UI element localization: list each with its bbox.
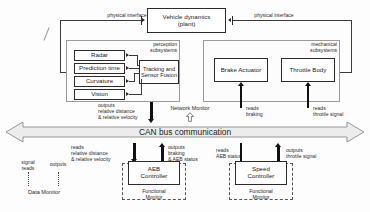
sensor-label-radar: Radar: [91, 52, 108, 59]
mechanical-subsystems-label: mechanical subsystems: [286, 41, 337, 53]
brake-command-arrow-shaft: [240, 86, 243, 108]
can-bus-label: CAN bus communication: [6, 127, 364, 137]
throttle-command-arrow-shaft: [307, 86, 310, 108]
speed-controller-label-line2: Controller: [248, 173, 275, 180]
bus-label-above-reads-braking: reads braking: [246, 105, 286, 117]
data-monitor-signal-reads-label: signal reads: [14, 159, 42, 171]
brake-actuator-label: Brake Actuator: [221, 67, 262, 74]
prediction-time-to-fusion: [129, 68, 139, 69]
speed-controller-box: Speed Controller: [235, 161, 287, 185]
bus-label-below-reads-aeb-status: reads AEB status: [216, 147, 258, 159]
throttle-body-label: Throttle Body: [290, 67, 327, 74]
physical-interface-left-label: physical interface: [96, 12, 158, 18]
brake-actuator-box: Brake Actuator: [214, 58, 268, 82]
tracking-sensor-fusion-box: Tracking and Sensor Fusion: [139, 60, 179, 84]
brake-command-arrowhead: [238, 82, 244, 86]
network-monitor-label: Network Monitor: [158, 105, 222, 112]
sensor-box-radar: Radar: [74, 50, 125, 61]
data-monitor-dotted-line-right: [58, 172, 59, 186]
stray-mark: [43, 27, 49, 40]
speed-functional-monitor-label: FunctionalMonitor: [237, 188, 285, 200]
aeb-read-arrow-shaft: [133, 143, 136, 160]
plant-left-feedback-vertical: [60, 20, 61, 72]
throttle-body-box: Throttle Body: [281, 58, 335, 82]
aeb-output-arrowhead: [159, 143, 165, 147]
fusion-label-line2: Sensor Fusion: [141, 72, 177, 78]
bus-label-above-reads-throttle: reads throttle signal: [313, 105, 361, 117]
can-bus-communication: CAN bus communication: [6, 121, 364, 143]
vehicle-dynamics-plant-box: Vehicle dynamics (plant): [147, 8, 226, 33]
aeb-functional-monitor-line1: Functional: [142, 188, 166, 194]
plant-left-feedback-horizontal: [60, 20, 141, 21]
aeb-functional-monitor-line2: Monitor: [146, 194, 163, 200]
bus-label-below-outputs-throttle: outputs throttle signal: [286, 147, 334, 159]
plant-right-bar: [232, 16, 233, 25]
sensor-label-prediction-time: Prediction time: [79, 65, 120, 72]
curvature-to-fusion-h2: [134, 73, 140, 74]
aeb-controller-box: AEB Controller: [128, 161, 180, 185]
data-monitor-outputs-label: outputs: [44, 161, 72, 167]
plant-right-feedback-vertical: [351, 20, 352, 72]
sensor-box-vision: Vision: [74, 89, 125, 100]
plant-right-arrowhead: [228, 18, 231, 22]
sensor-box-curvature: Curvature: [74, 76, 125, 87]
perception-subsystems-label: perception subsystems: [126, 41, 177, 53]
diagram-canvas: Vehicle dynamics (plant) physical interf…: [0, 0, 370, 212]
speed-read-arrow-shaft: [240, 143, 243, 162]
sensor-label-vision: Vision: [91, 91, 108, 98]
speed-functional-monitor-line2: Monitor: [253, 194, 270, 200]
speed-functional-monitor-line1: Functional: [249, 188, 273, 194]
radar-to-fusion-h2: [137, 65, 140, 66]
sensor-label-curvature: Curvature: [86, 78, 113, 85]
bus-label-below-reads-relative: reads relative distance & relative veloc…: [71, 144, 129, 163]
speed-output-arrowhead: [275, 143, 281, 147]
aeb-functional-monitor-label: FunctionalMonitor: [130, 188, 178, 200]
plant-label-line2: (plant): [163, 21, 211, 28]
bus-label-above-perception-outputs: outputs relative distance & relative vel…: [98, 102, 156, 121]
radar-to-fusion-v: [137, 55, 138, 65]
sensor-box-prediction-time: Prediction time: [74, 63, 125, 74]
perception-output-arrow-shaft: [150, 102, 153, 120]
data-monitor-dotted-line-left: [28, 172, 29, 186]
bus-label-below-outputs-braking: outputs braking & AEB status: [168, 144, 212, 163]
vision-to-fusion-v: [141, 79, 142, 95]
aeb-controller-label-line2: Controller: [141, 173, 168, 180]
data-monitor-label: Data Monitor: [18, 189, 70, 196]
plant-right-feedback-horizontal: [232, 20, 351, 21]
curvature-to-fusion-v: [134, 73, 135, 82]
physical-interface-right-label: physical interface: [241, 12, 307, 18]
throttle-command-arrowhead: [305, 82, 311, 86]
